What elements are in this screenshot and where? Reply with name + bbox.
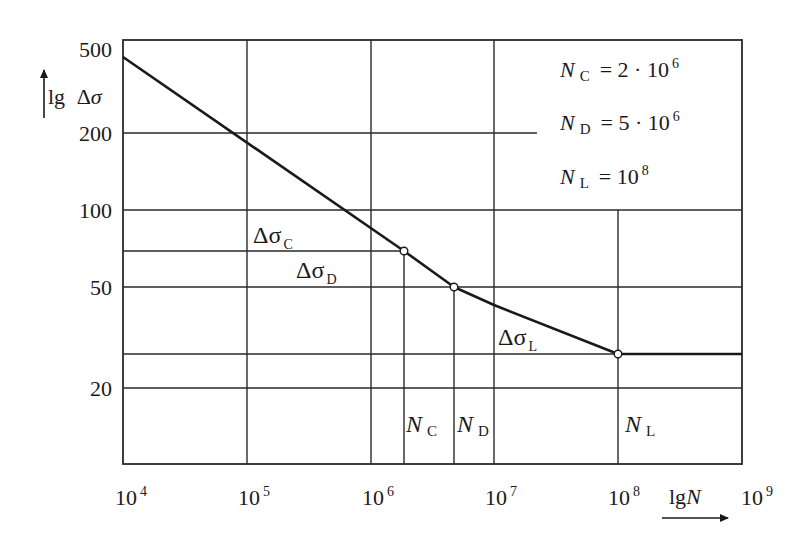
legend: NC= 2 · 106 ND= 5 · 106 NL= 108	[559, 56, 680, 191]
legend-nl: NL= 108	[559, 163, 649, 191]
y-axis-label: lg Δσ	[44, 70, 103, 118]
annotation-delta-sigma-d: ΔσD	[296, 257, 337, 287]
annotation-delta-sigma-l: ΔσL	[498, 324, 537, 354]
y-tick-100: 100	[79, 198, 112, 223]
annotation-delta-sigma-c: ΔσC	[253, 222, 293, 252]
legend-nd: ND= 5 · 106	[559, 109, 680, 137]
x-tick-1e5: 105	[238, 484, 270, 510]
vertical-gridlines	[247, 40, 618, 464]
annotation-n-l: NL	[624, 411, 655, 439]
y-axis-delta: Δ	[77, 84, 91, 109]
annotation-n-d: ND	[456, 411, 489, 439]
horizontal-gridlines	[123, 133, 742, 388]
y-tick-20: 20	[90, 376, 112, 401]
point-l	[614, 350, 622, 358]
x-tick-1e9: 109	[741, 484, 773, 510]
x-tick-1e6: 106	[362, 484, 394, 510]
x-tick-1e8: 108	[608, 484, 640, 510]
x-tick-1e4: 104	[115, 484, 147, 510]
annotation-n-c: NC	[405, 411, 437, 439]
plot-frame	[123, 40, 742, 464]
y-tick-50: 50	[90, 275, 112, 300]
point-d	[450, 283, 458, 291]
svg-text:lgN: lgN	[669, 484, 702, 509]
legend-nc: NC= 2 · 106	[559, 56, 679, 84]
y-axis-prefix: lg	[48, 84, 65, 109]
svg-text:lg Δσ: lg Δσ	[48, 84, 103, 109]
y-axis-sigma: σ	[91, 84, 103, 109]
sn-curve-chart: 500 200 100 50 20 lg Δσ 104 105 106 107 …	[0, 0, 800, 551]
y-tick-500: 500	[79, 37, 112, 62]
sn-curve-line	[123, 57, 742, 354]
y-tick-200: 200	[79, 121, 112, 146]
point-c	[400, 247, 408, 255]
x-axis-label: lgN	[662, 484, 728, 518]
x-tick-1e7: 107	[485, 484, 517, 510]
